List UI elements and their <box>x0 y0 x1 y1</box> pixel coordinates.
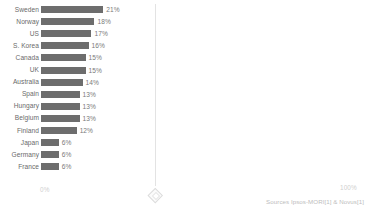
bar-track: 14% <box>41 77 140 88</box>
bar-row: Norway18% <box>0 16 140 27</box>
bar-track: 18% <box>41 16 140 27</box>
bar <box>41 18 94 25</box>
bar-row: Belgium13% <box>0 113 140 124</box>
bar-value-label: 15% <box>89 53 102 62</box>
bar-chart: Sweden21%Norway18%US17%S. Korea16%Canada… <box>0 0 368 211</box>
bar-row: Finland12% <box>0 125 140 136</box>
bar-track: 17% <box>41 28 140 39</box>
bar-value-label: 6% <box>62 162 72 171</box>
bar-track: 6% <box>41 137 140 148</box>
bar <box>41 6 103 13</box>
bar <box>41 115 80 122</box>
bar <box>41 163 59 170</box>
bar-category-label: Spain <box>0 90 41 98</box>
bar <box>41 103 80 110</box>
bar-track: 16% <box>41 40 140 51</box>
bar-row: Canada15% <box>0 52 140 63</box>
bar-row: Japan6% <box>0 137 140 148</box>
bar-category-label: US <box>0 30 41 38</box>
bar-track: 6% <box>41 149 140 160</box>
bar-row: US17% <box>0 28 140 39</box>
bar-value-label: 18% <box>97 17 110 26</box>
bar-value-label: 12% <box>80 126 93 135</box>
bar-row: Sweden21% <box>0 4 140 15</box>
bar-value-label: 21% <box>106 5 119 14</box>
bar-track: 21% <box>41 4 140 15</box>
bar-row: Spain13% <box>0 89 140 100</box>
diamond-resize-handle-icon[interactable] <box>148 188 163 203</box>
bar <box>41 42 89 49</box>
bar-value-label: 16% <box>92 41 105 50</box>
bar-row: UK15% <box>0 65 140 76</box>
bar-category-label: Germany <box>0 151 41 159</box>
bar-category-label: Norway <box>0 18 41 26</box>
bar-row: Hungary13% <box>0 101 140 112</box>
panel-divider-line <box>155 4 156 186</box>
bar <box>41 30 91 37</box>
bar-value-label: 6% <box>62 138 72 147</box>
bar-category-label: France <box>0 163 41 171</box>
bar-value-label: 13% <box>83 114 96 123</box>
bar-track: 6% <box>41 161 140 172</box>
axis-min-label: 0% <box>40 186 49 194</box>
bar-track: 12% <box>41 125 140 136</box>
axis-max-label: 100% <box>340 184 357 192</box>
bar-track: 13% <box>41 101 140 112</box>
bar-category-label: Finland <box>0 127 41 135</box>
bar <box>41 79 83 86</box>
bar-category-label: UK <box>0 66 41 74</box>
bar-category-label: Belgium <box>0 114 41 122</box>
bar-value-label: 13% <box>83 90 96 99</box>
bar-category-label: Japan <box>0 139 41 147</box>
bar <box>41 139 59 146</box>
bar-track: 15% <box>41 52 140 63</box>
bar <box>41 127 77 134</box>
bar-value-label: 13% <box>83 102 96 111</box>
bar-track: 13% <box>41 113 140 124</box>
bar-category-label: Canada <box>0 54 41 62</box>
bar <box>41 151 59 158</box>
source-note: Sources Ipsos-MORI[1] & Novus[1] <box>266 198 364 206</box>
bar-row: S. Korea16% <box>0 40 140 51</box>
bar <box>41 54 86 61</box>
bar-row: France6% <box>0 161 140 172</box>
bar-track: 15% <box>41 65 140 76</box>
bar-category-label: S. Korea <box>0 42 41 50</box>
bar-row: Australia14% <box>0 77 140 88</box>
bar <box>41 91 80 98</box>
bar-value-label: 14% <box>86 78 99 87</box>
bar <box>41 67 86 74</box>
bar-row: Germany6% <box>0 149 140 160</box>
bar-category-label: Hungary <box>0 102 41 110</box>
bar-track: 13% <box>41 89 140 100</box>
bar-category-label: Sweden <box>0 6 41 14</box>
bar-value-label: 17% <box>94 29 107 38</box>
bar-value-label: 6% <box>62 150 72 159</box>
bar-value-label: 15% <box>89 66 102 75</box>
bar-category-label: Australia <box>0 78 41 86</box>
